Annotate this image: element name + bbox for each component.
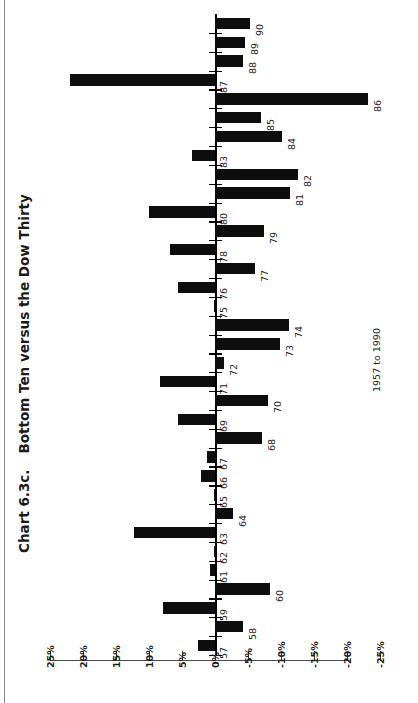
bar-87 <box>70 74 215 86</box>
bar-label-72: 72 <box>229 364 239 376</box>
bar-75 <box>214 300 215 312</box>
bar-label-76: 76 <box>219 288 229 300</box>
bar-86 <box>215 93 368 105</box>
category-tick <box>209 523 222 524</box>
category-tick <box>209 372 222 373</box>
bar-label-68: 68 <box>267 439 277 451</box>
bar-89 <box>215 37 245 49</box>
category-tick <box>209 580 222 581</box>
bar-84 <box>215 131 282 143</box>
bar-label-90: 90 <box>255 24 265 36</box>
bar-71 <box>160 376 215 388</box>
bar-label-67: 67 <box>219 458 229 470</box>
bar-82 <box>215 169 298 181</box>
category-tick <box>209 297 222 298</box>
bar-label-59: 59 <box>219 609 229 621</box>
bar-label-81: 81 <box>295 194 305 206</box>
bar-label-86: 86 <box>373 100 383 112</box>
category-tick <box>209 410 222 411</box>
bar-77 <box>215 263 255 275</box>
bar-61 <box>210 564 215 576</box>
value-scale-axis <box>50 660 347 661</box>
category-tick <box>209 485 222 486</box>
category-tick <box>209 127 222 128</box>
scale-label: -10% <box>275 628 289 668</box>
bar-60 <box>215 583 270 595</box>
bar-label-66: 66 <box>219 477 229 489</box>
bar-label-89: 89 <box>250 43 260 55</box>
category-tick <box>209 353 222 354</box>
bar-label-71: 71 <box>219 383 229 395</box>
bar-74 <box>215 319 289 331</box>
category-tick <box>209 316 222 317</box>
bar-67 <box>207 451 215 463</box>
category-tick <box>209 504 222 505</box>
bar-label-88: 88 <box>248 62 258 74</box>
category-tick <box>209 89 222 90</box>
category-tick <box>209 561 222 562</box>
category-tick <box>209 33 222 34</box>
bar-label-87: 87 <box>219 81 229 93</box>
category-tick <box>209 108 222 109</box>
scale-label: 25% <box>44 628 58 668</box>
category-tick <box>209 448 222 449</box>
bar-65 <box>214 489 215 501</box>
bar-label-60: 60 <box>275 590 285 602</box>
scale-label: 10% <box>143 628 157 668</box>
bar-81 <box>215 187 290 199</box>
scale-label: -20% <box>341 628 355 668</box>
bar-label-74: 74 <box>294 326 304 338</box>
scale-label: -25% <box>374 628 388 668</box>
bar-label-70: 70 <box>273 401 283 413</box>
bar-label-83: 83 <box>219 156 229 168</box>
bar-label-84: 84 <box>287 137 297 149</box>
bar-label-77: 77 <box>260 269 270 281</box>
category-tick <box>209 542 222 543</box>
bar-label-63: 63 <box>219 533 229 545</box>
bar-label-69: 69 <box>219 420 229 432</box>
scale-label: 5% <box>176 628 190 668</box>
category-tick <box>209 391 222 392</box>
bar-78 <box>170 244 215 256</box>
bar-70 <box>215 395 268 407</box>
category-tick <box>209 52 222 53</box>
bar-label-80: 80 <box>219 213 229 225</box>
category-tick <box>209 203 222 204</box>
bar-label-64: 64 <box>238 515 248 527</box>
bar-label-73: 73 <box>285 345 295 357</box>
bar-64 <box>215 508 233 520</box>
chart-page: Chart 6.3c.Bottom Ten versus the Dow Thi… <box>0 0 418 703</box>
bar-59 <box>163 602 215 614</box>
bar-80 <box>149 206 215 218</box>
bar-62 <box>214 546 215 558</box>
bar-63 <box>134 527 215 539</box>
bar-73 <box>215 338 280 350</box>
category-tick <box>209 71 222 72</box>
scale-label: -5% <box>242 628 256 668</box>
plot-area: 5758596061626364656667686970717273747576… <box>0 0 418 703</box>
bar-label-85: 85 <box>266 119 276 131</box>
bar-68 <box>215 432 262 444</box>
bar-label-75: 75 <box>219 307 229 319</box>
scale-label: 15% <box>110 628 124 668</box>
bar-72 <box>215 357 224 369</box>
bar-66 <box>201 470 215 482</box>
bar-label-65: 65 <box>219 496 229 508</box>
bar-label-62: 62 <box>219 552 229 564</box>
bar-label-61: 61 <box>219 571 229 583</box>
bar-88 <box>215 55 243 67</box>
bar-69 <box>178 414 215 426</box>
bar-label-82: 82 <box>303 175 313 187</box>
category-tick <box>209 240 222 241</box>
scale-label: 20% <box>77 628 91 668</box>
bar-83 <box>192 150 215 162</box>
category-tick <box>209 598 222 599</box>
bar-90 <box>215 18 250 30</box>
scale-label: -15% <box>308 628 322 668</box>
category-tick <box>209 278 222 279</box>
category-tick <box>209 335 222 336</box>
bar-85 <box>215 112 261 124</box>
category-tick <box>209 466 222 467</box>
category-tick <box>209 146 222 147</box>
category-tick <box>209 429 222 430</box>
